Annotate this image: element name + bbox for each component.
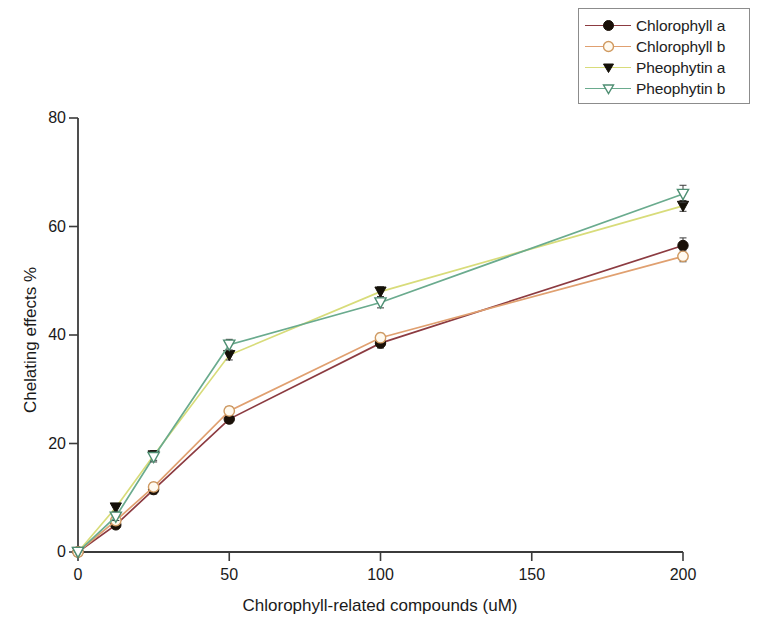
data-point <box>148 482 158 492</box>
x-axis-title: Chlorophyll-related compounds (uM) <box>0 596 760 616</box>
data-point <box>678 251 688 261</box>
data-point <box>375 333 385 343</box>
legend-item-pheophytin-b: Pheophytin b <box>585 78 745 99</box>
open-triangle-down-icon <box>601 81 616 96</box>
data-point <box>375 287 386 297</box>
chart-legend: Chlorophyll a Chlorophyll b Pheophytin a <box>578 8 750 104</box>
series-line <box>78 194 683 552</box>
x-tick-label: 200 <box>670 566 697 584</box>
y-tick-label: 40 <box>26 326 66 344</box>
legend-label: Chlorophyll a <box>631 17 725 35</box>
x-tick-label: 100 <box>367 566 394 584</box>
y-tick-label: 60 <box>26 218 66 236</box>
y-tick-label: 0 <box>26 543 66 561</box>
chart-figure: Chelating effects % Chlorophyll-related … <box>0 0 760 628</box>
filled-triangle-down-icon <box>601 60 616 75</box>
series-line <box>78 206 683 552</box>
y-tick-label: 20 <box>26 435 66 453</box>
series-pheophytin-a <box>72 200 688 557</box>
legend-item-chlorophyll-a: Chlorophyll a <box>585 15 745 36</box>
series-chlorophyll-a <box>73 238 688 557</box>
x-tick-label: 50 <box>220 566 238 584</box>
x-tick-label: 150 <box>518 566 545 584</box>
legend-label: Chlorophyll b <box>631 38 725 56</box>
data-point <box>678 240 688 250</box>
data-point <box>677 189 688 199</box>
y-tick-label: 80 <box>26 109 66 127</box>
open-circle-icon <box>601 39 616 54</box>
x-tick-label: 0 <box>74 566 83 584</box>
series-pheophytin-b <box>72 185 688 557</box>
data-point <box>224 340 235 350</box>
legend-item-pheophytin-a: Pheophytin a <box>585 57 745 78</box>
legend-swatch-pheophytin-b <box>585 79 631 99</box>
legend-label: Pheophytin b <box>631 80 725 98</box>
legend-swatch-chlorophyll-b <box>585 37 631 57</box>
legend-label: Pheophytin a <box>631 59 725 77</box>
filled-circle-icon <box>601 18 616 33</box>
legend-swatch-pheophytin-a <box>585 58 631 78</box>
data-point <box>224 406 234 416</box>
legend-swatch-chlorophyll-a <box>585 16 631 36</box>
legend-item-chlorophyll-b: Chlorophyll b <box>585 36 745 57</box>
